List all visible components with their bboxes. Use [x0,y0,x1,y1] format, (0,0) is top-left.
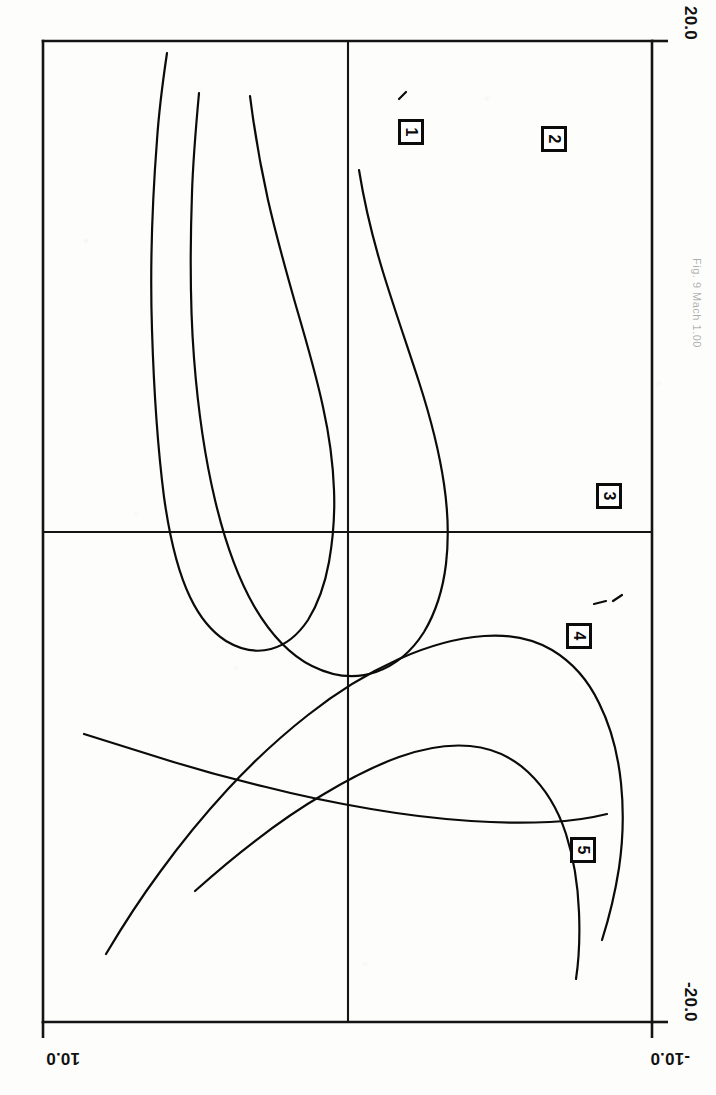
y-axis-tick-label-min: -10.0 [650,1048,690,1068]
curve-4 [195,745,579,979]
curve-label-1-text: 1 [403,128,419,137]
curve-label-4-text: 4 [571,632,587,641]
x-axis-tick-label-min: -20.0 [680,982,700,1022]
curve-label-5: 5 [570,837,596,863]
curve-2 [191,93,448,676]
interior-axis-cross [43,41,652,1022]
curve-label-5-text: 5 [575,846,591,855]
curve-label-4: 4 [566,623,592,649]
y-axis-tick-label-max: 10.0 [46,1048,80,1068]
axis-tick-marks [43,41,668,1038]
curve-label-3: 3 [596,483,622,509]
curve-label-2: 2 [541,126,567,152]
curve-1-end-tick [399,92,406,99]
curve-5 [84,734,607,823]
curve-3-end-tick [613,595,622,601]
x-axis-tick-label-max: 20.0 [680,6,700,40]
curve-4-end-tick [594,601,606,604]
data-curves [84,53,623,979]
plot-canvas [0,0,716,1095]
curve-end-ticks [399,92,622,604]
figure-caption: Fig. 9 Mach 1.00 [691,258,703,348]
curve-label-1: 1 [398,119,424,145]
curve-3 [106,636,623,954]
curve-label-2-text: 2 [546,135,562,144]
figure-page: 20.0 -20.0 10.0 -10.0 1 2 3 4 5 Fig. 9 M… [0,0,716,1095]
curve-label-3-text: 3 [601,492,617,501]
curve-1 [151,53,334,651]
